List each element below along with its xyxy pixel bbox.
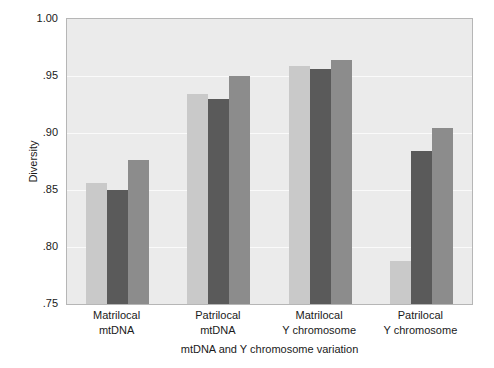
bar <box>310 69 331 304</box>
y-tick-label: .90 <box>43 127 58 138</box>
plot-area <box>66 18 473 305</box>
x-group-label: MatrilocalY chromosome <box>282 308 356 338</box>
x-group-label-line1: Patrilocal <box>398 309 443 321</box>
x-group-label: PatrilocalmtDNA <box>195 308 240 338</box>
y-tick-label: .85 <box>43 184 58 195</box>
x-group-label-line2: Y chromosome <box>282 323 356 338</box>
x-group-label-line1: Matrilocal <box>296 309 343 321</box>
bar <box>289 66 310 304</box>
y-tick-label: .80 <box>43 241 58 252</box>
x-group-label-line2: mtDNA <box>195 323 240 338</box>
x-group-label: MatrilocalmtDNA <box>93 308 140 338</box>
bar <box>187 94 208 304</box>
bar-series-layer <box>67 19 472 304</box>
bar <box>229 76 250 304</box>
x-group-label-line1: Matrilocal <box>93 309 140 321</box>
y-tick-label: .75 <box>43 298 58 309</box>
bar <box>432 128 453 304</box>
bar <box>208 99 229 304</box>
bar <box>107 190 128 304</box>
x-group-label: PatrilocalY chromosome <box>383 308 457 338</box>
bar <box>128 160 149 304</box>
y-tick-label: 1.00 <box>37 13 58 24</box>
x-group-label-line1: Patrilocal <box>195 309 240 321</box>
x-axis-title: mtDNA and Y chromosome variation <box>66 342 473 356</box>
y-axis-tick-labels: 1.00.95.90.85.80.75 <box>20 18 62 305</box>
x-axis-tick-labels: MatrilocalmtDNAPatrilocalmtDNAMatrilocal… <box>66 308 473 342</box>
x-group-label-line2: mtDNA <box>93 323 140 338</box>
x-group-label-line2: Y chromosome <box>383 323 457 338</box>
bar-chart: Diversity 1.00.95.90.85.80.75 Matrilocal… <box>0 0 494 368</box>
y-tick-label: .95 <box>43 70 58 81</box>
bar <box>390 261 411 304</box>
bar <box>331 60 352 304</box>
bar <box>411 151 432 304</box>
bar <box>86 183 107 304</box>
